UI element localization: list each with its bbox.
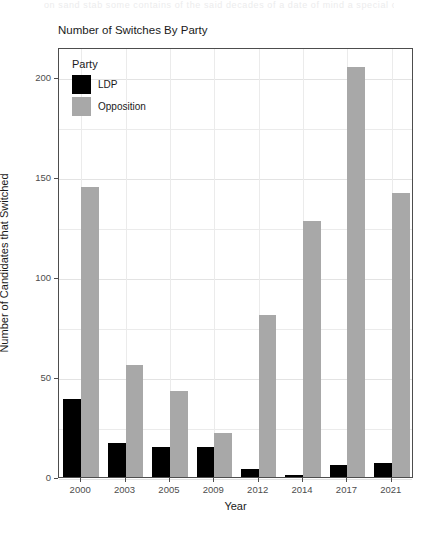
- x-tick-label: 2014: [291, 484, 312, 495]
- bar-opposition-2005: [170, 391, 188, 477]
- y-tick-label: 150: [35, 172, 51, 183]
- x-tick-mark: [213, 478, 214, 482]
- x-tick-label: 2009: [203, 484, 224, 495]
- x-tick-label: 2003: [114, 484, 135, 495]
- legend-swatch-opposition-icon: [72, 97, 91, 116]
- bar-ldp-2003: [108, 443, 126, 477]
- bar-ldp-2009: [197, 447, 215, 477]
- bar-opposition-2014: [303, 221, 321, 477]
- legend-item-ldp: LDP: [72, 75, 176, 94]
- x-tick-label: 2012: [247, 484, 268, 495]
- y-tick-label: 0: [46, 472, 51, 483]
- x-tick-mark: [169, 478, 170, 482]
- x-tick-mark: [125, 478, 126, 482]
- y-tick-mark: [54, 478, 58, 479]
- x-tick-mark: [391, 478, 392, 482]
- y-tick-label: 50: [40, 372, 51, 383]
- grid-line-horizontal: [59, 479, 412, 480]
- x-tick-label: 2017: [336, 484, 357, 495]
- x-tick-label: 2021: [380, 484, 401, 495]
- y-tick-label: 200: [35, 72, 51, 83]
- bar-opposition-2012: [259, 315, 277, 477]
- y-tick-mark: [54, 278, 58, 279]
- legend-swatch-ldp-icon: [72, 75, 91, 94]
- bar-opposition-2003: [126, 365, 144, 477]
- x-tick-label: 2000: [70, 484, 91, 495]
- x-tick-mark: [80, 478, 81, 482]
- legend-label-opposition: Opposition: [98, 101, 146, 112]
- bar-opposition-2017: [347, 67, 365, 477]
- bar-ldp-2005: [152, 447, 170, 477]
- bar-ldp-2021: [374, 463, 392, 477]
- legend: Party LDP Opposition: [72, 58, 176, 119]
- x-tick-label: 2005: [158, 484, 179, 495]
- x-tick-mark: [346, 478, 347, 482]
- bar-ldp-2000: [63, 399, 81, 477]
- bar-ldp-2014: [285, 475, 303, 477]
- x-tick-mark: [258, 478, 259, 482]
- y-tick-mark: [54, 378, 58, 379]
- chart-title: Number of Switches By Party: [58, 24, 208, 36]
- y-tick-mark: [54, 78, 58, 79]
- y-tick-label: 100: [35, 272, 51, 283]
- y-tick-mark: [54, 178, 58, 179]
- top-page-artifact-text: on sand stab some contains of the said d…: [44, 0, 394, 12]
- bar-opposition-2000: [81, 187, 99, 477]
- legend-title: Party: [72, 58, 176, 70]
- x-axis-title: Year: [58, 500, 413, 512]
- bar-opposition-2021: [392, 193, 410, 477]
- legend-label-ldp: LDP: [98, 79, 117, 90]
- legend-item-opposition: Opposition: [72, 97, 176, 116]
- bar-ldp-2017: [330, 465, 348, 477]
- y-axis-title: Number of Candidates that Switched: [0, 173, 10, 352]
- bar-ldp-2012: [241, 469, 259, 477]
- x-tick-mark: [302, 478, 303, 482]
- bar-opposition-2009: [214, 433, 232, 477]
